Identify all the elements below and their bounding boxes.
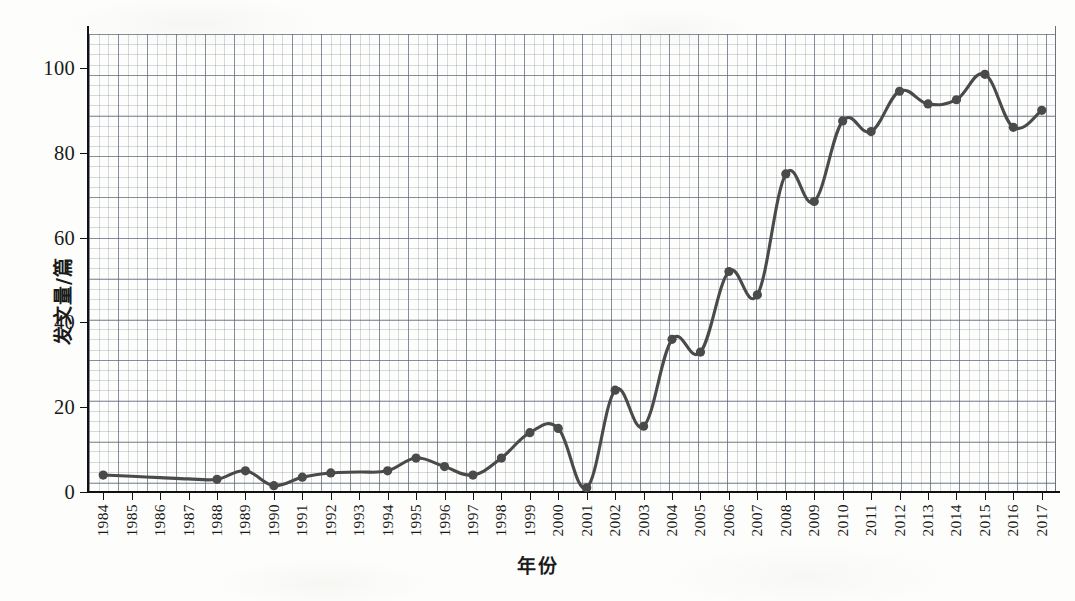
y-tick-label: 60 bbox=[54, 226, 75, 249]
x-tick-mark bbox=[871, 492, 872, 500]
y-tick-mark bbox=[80, 238, 89, 239]
x-axis-title: 年份 bbox=[0, 551, 1075, 578]
x-tick-label: 1992 bbox=[322, 504, 340, 537]
y-tick-label: 80 bbox=[54, 141, 75, 164]
data-point-marker bbox=[241, 466, 250, 475]
y-tick-mark bbox=[80, 68, 89, 69]
data-point-marker bbox=[440, 462, 449, 471]
y-tick-mark bbox=[80, 407, 89, 408]
x-tick-mark bbox=[501, 492, 502, 500]
x-tick-mark bbox=[302, 492, 303, 500]
x-tick-label: 1997 bbox=[464, 504, 482, 537]
x-tick-label: 1989 bbox=[236, 504, 254, 537]
x-tick-mark bbox=[103, 492, 104, 500]
y-tick-mark bbox=[80, 153, 89, 154]
x-tick-mark bbox=[473, 492, 474, 500]
data-point-marker bbox=[810, 197, 819, 206]
data-point-marker bbox=[1009, 123, 1018, 132]
y-tick-label: 0 bbox=[64, 481, 75, 504]
x-tick-label: 1999 bbox=[521, 504, 539, 537]
data-point-marker bbox=[269, 481, 278, 490]
data-point-marker bbox=[326, 468, 335, 477]
x-tick-mark bbox=[359, 492, 360, 500]
x-tick-label: 2017 bbox=[1033, 504, 1051, 537]
data-point-marker bbox=[895, 87, 904, 96]
x-tick-mark bbox=[615, 492, 616, 500]
x-tick-mark bbox=[445, 492, 446, 500]
x-tick-mark bbox=[1042, 492, 1043, 500]
data-series-line bbox=[89, 34, 1056, 492]
x-tick-label: 2011 bbox=[862, 504, 880, 536]
x-tick-label: 2015 bbox=[976, 504, 994, 537]
x-tick-label: 1984 bbox=[94, 504, 112, 537]
x-tick-label: 1993 bbox=[350, 504, 368, 537]
data-point-marker bbox=[753, 290, 762, 299]
x-tick-mark bbox=[530, 492, 531, 500]
y-tick-mark bbox=[80, 322, 89, 323]
x-tick-mark bbox=[132, 492, 133, 500]
data-point-marker bbox=[696, 347, 705, 356]
data-point-marker bbox=[411, 453, 420, 462]
data-point-marker bbox=[980, 70, 989, 79]
x-tick-label: 2001 bbox=[578, 504, 596, 537]
x-tick-mark bbox=[558, 492, 559, 500]
data-point-marker bbox=[952, 95, 961, 104]
data-point-marker bbox=[923, 99, 932, 108]
data-point-marker bbox=[867, 127, 876, 136]
data-point-marker bbox=[667, 335, 676, 344]
x-tick-label: 2006 bbox=[720, 504, 738, 537]
x-tick-mark bbox=[956, 492, 957, 500]
x-tick-label: 1985 bbox=[123, 504, 141, 537]
x-tick-label: 1995 bbox=[407, 504, 425, 537]
data-point-marker bbox=[1037, 106, 1046, 115]
x-tick-label: 2008 bbox=[777, 504, 795, 537]
x-tick-mark bbox=[217, 492, 218, 500]
x-tick-mark bbox=[729, 492, 730, 500]
plot-area: 020406080100 198419851986198719881989199… bbox=[89, 34, 1056, 492]
data-point-marker bbox=[781, 169, 790, 178]
y-tick-mark bbox=[80, 492, 89, 493]
x-tick-label: 2004 bbox=[663, 504, 681, 537]
x-tick-label: 1998 bbox=[492, 504, 510, 537]
x-tick-mark bbox=[928, 492, 929, 500]
data-point-marker bbox=[468, 470, 477, 479]
x-tick-label: 1987 bbox=[180, 504, 198, 537]
x-tick-mark bbox=[388, 492, 389, 500]
x-tick-mark bbox=[843, 492, 844, 500]
x-tick-label: 2010 bbox=[834, 504, 852, 537]
x-tick-label: 2003 bbox=[635, 504, 653, 537]
y-tick-label: 40 bbox=[54, 311, 75, 334]
x-tick-label: 2005 bbox=[691, 504, 709, 537]
data-point-marker bbox=[838, 116, 847, 125]
x-tick-mark bbox=[786, 492, 787, 500]
x-tick-mark bbox=[245, 492, 246, 500]
data-point-marker bbox=[383, 466, 392, 475]
x-tick-label: 2014 bbox=[947, 504, 965, 537]
x-tick-label: 2016 bbox=[1004, 504, 1022, 537]
data-point-marker bbox=[525, 428, 534, 437]
x-tick-label: 2000 bbox=[549, 504, 567, 537]
data-point-marker bbox=[298, 473, 307, 482]
x-tick-mark bbox=[274, 492, 275, 500]
series-polyline bbox=[103, 74, 1042, 489]
x-tick-label: 1988 bbox=[208, 504, 226, 537]
x-tick-label: 1990 bbox=[265, 504, 283, 537]
chart-page: 发文量/篇 年份 020406080100 198419851986198719… bbox=[0, 0, 1075, 601]
data-point-marker bbox=[212, 475, 221, 484]
x-tick-label: 2002 bbox=[606, 504, 624, 537]
x-tick-mark bbox=[757, 492, 758, 500]
data-point-marker bbox=[724, 267, 733, 276]
x-tick-mark bbox=[900, 492, 901, 500]
data-point-marker bbox=[497, 453, 506, 462]
x-tick-label: 2009 bbox=[805, 504, 823, 537]
x-tick-label: 1986 bbox=[151, 504, 169, 537]
x-tick-mark bbox=[985, 492, 986, 500]
x-tick-mark bbox=[672, 492, 673, 500]
x-tick-label: 2007 bbox=[748, 504, 766, 537]
x-tick-label: 2012 bbox=[891, 504, 909, 537]
data-point-marker bbox=[99, 470, 108, 479]
x-tick-mark bbox=[189, 492, 190, 500]
x-tick-mark bbox=[331, 492, 332, 500]
x-tick-mark bbox=[1013, 492, 1014, 500]
x-tick-mark bbox=[416, 492, 417, 500]
